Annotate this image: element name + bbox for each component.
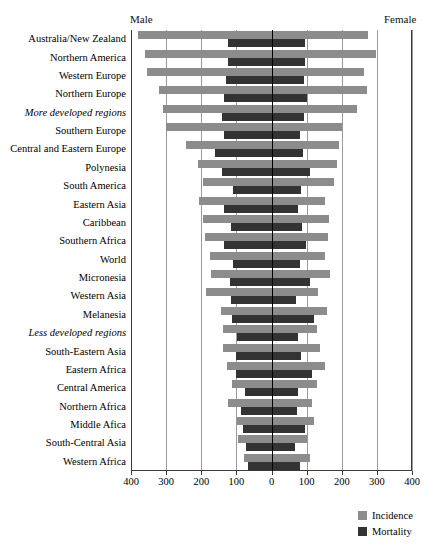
x-axis-tick-label: 0 bbox=[269, 476, 274, 487]
x-axis-tick bbox=[272, 471, 273, 475]
category-label: Caribbean bbox=[0, 217, 126, 229]
x-axis-tick-label: 300 bbox=[369, 476, 385, 487]
category-label: Melanesia bbox=[0, 309, 126, 321]
incidence-mortality-pyramid-chart: Male Female Australia/New ZealandNorther… bbox=[0, 0, 448, 548]
category-label: Northern America bbox=[0, 52, 126, 64]
legend-label: Mortality bbox=[372, 526, 412, 537]
category-label: South-Central Asia bbox=[0, 437, 126, 449]
x-axis-tick-label: 100 bbox=[299, 476, 315, 487]
x-axis-tick-label: 100 bbox=[229, 476, 245, 487]
legend-label: Incidence bbox=[372, 510, 413, 521]
gridline bbox=[412, 30, 413, 471]
x-axis-tick bbox=[201, 471, 202, 475]
category-label: South America bbox=[0, 180, 126, 192]
x-axis-tick bbox=[412, 471, 413, 475]
category-label: Less developed regions bbox=[0, 327, 126, 339]
x-axis-tick-label: 200 bbox=[334, 476, 350, 487]
x-axis-tick-label: 300 bbox=[158, 476, 174, 487]
category-label: Micronesia bbox=[0, 272, 126, 284]
x-axis-tick bbox=[307, 471, 308, 475]
x-axis: 4003002001000100200300400 bbox=[131, 471, 412, 491]
x-axis-tick bbox=[377, 471, 378, 475]
category-label: South-Eastern Asia bbox=[0, 346, 126, 358]
x-axis-tick-label: 200 bbox=[193, 476, 209, 487]
legend-swatch bbox=[358, 511, 367, 520]
legend-item: Mortality bbox=[358, 524, 413, 538]
plot-area bbox=[131, 30, 412, 471]
category-label: Polynesia bbox=[0, 162, 126, 174]
category-label: Northern Africa bbox=[0, 401, 126, 413]
x-axis-tick-label: 400 bbox=[404, 476, 420, 487]
category-label: Western Europe bbox=[0, 70, 126, 82]
category-label: World bbox=[0, 254, 126, 266]
category-label: Middle Afica bbox=[0, 419, 126, 431]
x-axis-tick bbox=[342, 471, 343, 475]
category-label: Southern Europe bbox=[0, 125, 126, 137]
category-label: Western Asia bbox=[0, 290, 126, 302]
category-label: Central America bbox=[0, 382, 126, 394]
chart-legend: IncidenceMortality bbox=[358, 508, 413, 540]
category-label: Central and Eastern Europe bbox=[0, 143, 126, 155]
x-axis-tick-label: 400 bbox=[123, 476, 139, 487]
category-label: Northern Europe bbox=[0, 88, 126, 100]
category-label: Western Africa bbox=[0, 456, 126, 468]
category-label: Eastern Asia bbox=[0, 199, 126, 211]
male-side-label: Male bbox=[130, 13, 153, 25]
legend-swatch bbox=[358, 527, 367, 536]
x-axis-tick bbox=[166, 471, 167, 475]
female-side-label: Female bbox=[384, 13, 416, 25]
x-axis-tick bbox=[131, 471, 132, 475]
x-axis-tick bbox=[236, 471, 237, 475]
category-label: Eastern Africa bbox=[0, 364, 126, 376]
category-label: Australia/New Zealand bbox=[0, 33, 126, 45]
zero-axis-line bbox=[272, 30, 273, 471]
category-label: More developed regions bbox=[0, 107, 126, 119]
legend-item: Incidence bbox=[358, 508, 413, 522]
category-label: Southern Africa bbox=[0, 235, 126, 247]
